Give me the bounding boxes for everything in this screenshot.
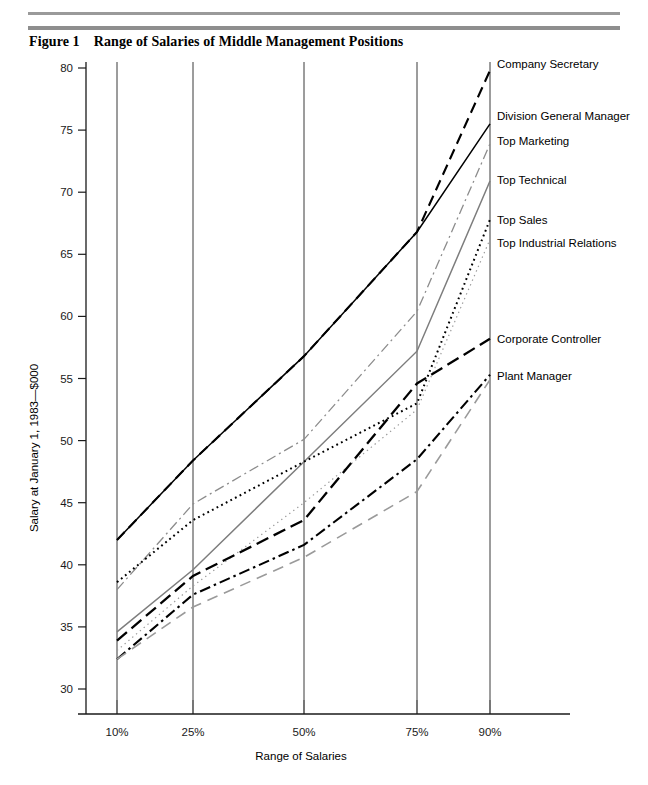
y-tick-label: 55: [60, 373, 73, 385]
figure-number: Figure 1: [29, 34, 80, 49]
page-top-rule: [28, 12, 620, 15]
axes-group: [78, 62, 570, 714]
x-tick-label: 50%: [292, 726, 315, 738]
series-label-corporate-controller: Corporate Controller: [497, 333, 601, 345]
x-tick-label: 25%: [181, 726, 204, 738]
y-tick-label: 60: [60, 310, 73, 322]
y-tick-label: 80: [60, 62, 73, 74]
series-label-top-technical: Top Technical: [497, 174, 566, 186]
y-tick-label: 30: [60, 683, 73, 695]
series-label-top-marketing: Top Marketing: [497, 135, 569, 147]
y-tick-label: 70: [60, 186, 73, 198]
figure-title: Range of Salaries of Middle Management P…: [94, 34, 404, 49]
y-axis-title: Salary at January 1, 1983—$000: [28, 364, 40, 532]
y-tick-label: 45: [60, 497, 73, 509]
vertical-gridlines: [117, 62, 490, 700]
series-label-top-industrial-relations: Top Industrial Relations: [497, 237, 617, 249]
series-label-division-general-manager: Division General Manager: [497, 110, 630, 122]
x-axis-title: Range of Salaries: [255, 750, 347, 762]
series-label-plant-manager: Plant Manager: [497, 370, 572, 382]
series-label-company-secretary: Company Secretary: [497, 58, 599, 70]
x-tick-label: 90%: [478, 726, 501, 738]
y-axis-ticks: 3035404550556065707580: [60, 62, 86, 695]
y-tick-label: 40: [60, 559, 73, 571]
figure-title-rule: [28, 26, 620, 30]
x-tick-label: 10%: [105, 726, 128, 738]
y-tick-label: 75: [60, 124, 73, 136]
figure-page: Figure 1Range of Salaries of Middle Mana…: [0, 0, 648, 785]
series-label-top-sales: Top Sales: [497, 214, 548, 226]
y-tick-label: 50: [60, 435, 73, 447]
salary-range-line-chart: 3035404550556065707580 10%25%50%75%90% C…: [0, 48, 648, 785]
y-tick-label: 35: [60, 621, 73, 633]
y-tick-label: 65: [60, 248, 73, 260]
x-axis-ticks: 10%25%50%75%90%: [105, 700, 501, 738]
x-tick-label: 75%: [405, 726, 428, 738]
series-labels: Company SecretaryDivision General Manage…: [497, 58, 630, 382]
